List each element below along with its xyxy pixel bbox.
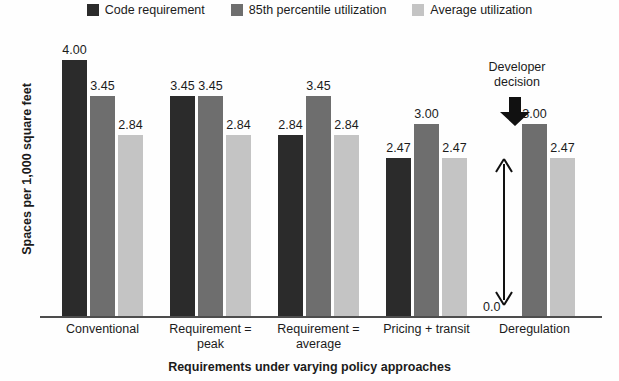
bar[interactable] bbox=[306, 96, 331, 316]
x-tick-label-line: peak bbox=[150, 337, 271, 352]
x-tick-label-line: Pricing + transit bbox=[366, 322, 487, 337]
down-arrow-icon bbox=[498, 97, 532, 127]
x-tick-label: Deregulation bbox=[474, 322, 595, 337]
x-tick-label: Pricing + transit bbox=[366, 322, 487, 337]
bar-group: 2.843.452.84 bbox=[278, 38, 359, 316]
bar[interactable] bbox=[334, 135, 359, 316]
bar[interactable] bbox=[550, 158, 575, 316]
legend-swatch-icon bbox=[412, 4, 424, 16]
bar-group: 3.453.452.84 bbox=[170, 38, 251, 316]
bar-value-label: 3.45 bbox=[198, 80, 222, 93]
bar-value-label: 3.45 bbox=[170, 80, 194, 93]
bar[interactable] bbox=[414, 124, 439, 316]
legend-entry-85th-percentile-utilization: 85th percentile utilization bbox=[231, 4, 387, 17]
legend-swatch-icon bbox=[87, 4, 99, 16]
bar[interactable] bbox=[386, 158, 411, 316]
legend-label: 85th percentile utilization bbox=[249, 4, 387, 17]
x-tick-label-line: Requirement = bbox=[258, 322, 379, 337]
bar-slot: 2.47 bbox=[386, 38, 411, 316]
bar[interactable] bbox=[278, 135, 303, 316]
double-headed-vertical-arrow-icon bbox=[491, 158, 517, 306]
bar-value-label: 3.00 bbox=[414, 108, 438, 121]
x-axis-line bbox=[40, 316, 602, 318]
y-axis-title: Spaces per 1,000 square feet bbox=[20, 54, 34, 284]
bar-slot: 2.84 bbox=[226, 38, 251, 316]
bar-value-label: 2.47 bbox=[442, 142, 466, 155]
bar[interactable] bbox=[522, 124, 547, 316]
x-tick-label-line: Deregulation bbox=[474, 322, 595, 337]
bar[interactable] bbox=[62, 60, 87, 316]
bar-slot: 4.00 bbox=[62, 38, 87, 316]
bar-slot: 3.45 bbox=[306, 38, 331, 316]
x-axis-title: Requirements under varying policy approa… bbox=[0, 360, 619, 374]
bar-slot: 3.45 bbox=[198, 38, 223, 316]
bar-value-label: 2.84 bbox=[278, 119, 302, 132]
bar[interactable] bbox=[442, 158, 467, 316]
x-tick-label: Requirement =average bbox=[258, 322, 379, 352]
bar-value-label: 3.45 bbox=[90, 80, 114, 93]
bar[interactable] bbox=[90, 96, 115, 316]
zero-baseline-label: 0.0 bbox=[483, 300, 500, 314]
x-tick-label: Requirement =peak bbox=[150, 322, 271, 352]
bar-value-label: 2.47 bbox=[386, 142, 410, 155]
bar[interactable] bbox=[198, 96, 223, 316]
x-tick-label-line: Conventional bbox=[42, 322, 163, 337]
bar-group: 4.003.452.84 bbox=[62, 38, 143, 316]
bar-slot: 2.84 bbox=[278, 38, 303, 316]
bar[interactable] bbox=[226, 135, 251, 316]
bar-slot: 2.84 bbox=[118, 38, 143, 316]
bar[interactable] bbox=[170, 96, 195, 316]
bar-slot: 3.45 bbox=[170, 38, 195, 316]
bar-value-label: 2.84 bbox=[226, 119, 250, 132]
x-tick-label: Conventional bbox=[42, 322, 163, 337]
annotation-line-2: decision bbox=[462, 75, 572, 90]
bar[interactable] bbox=[118, 135, 143, 316]
bar-value-label: 2.84 bbox=[118, 119, 142, 132]
bar-value-label: 2.84 bbox=[334, 119, 358, 132]
chart-legend: Code requirement 85th percentile utiliza… bbox=[0, 4, 619, 17]
bar-value-label: 3.45 bbox=[306, 80, 330, 93]
x-tick-label-line: average bbox=[258, 337, 379, 352]
bar-slot: 2.84 bbox=[334, 38, 359, 316]
bar-slot: 3.00 bbox=[414, 38, 439, 316]
legend-swatch-icon bbox=[231, 4, 243, 16]
bar-value-label: 4.00 bbox=[62, 44, 86, 57]
legend-label: Average utilization bbox=[430, 4, 532, 17]
bar-slot: 3.45 bbox=[90, 38, 115, 316]
annotation-line-1: Developer bbox=[462, 60, 572, 75]
legend-label: Code requirement bbox=[105, 4, 205, 17]
bar-value-label: 2.47 bbox=[550, 142, 574, 155]
legend-entry-code-requirement: Code requirement bbox=[87, 4, 205, 17]
bar-group: 2.473.002.47 bbox=[386, 38, 467, 316]
chart-figure: Code requirement 85th percentile utiliza… bbox=[0, 0, 619, 381]
developer-decision-annotation: Developer decision bbox=[462, 60, 572, 90]
x-tick-label-line: Requirement = bbox=[150, 322, 271, 337]
legend-entry-average-utilization: Average utilization bbox=[412, 4, 532, 17]
